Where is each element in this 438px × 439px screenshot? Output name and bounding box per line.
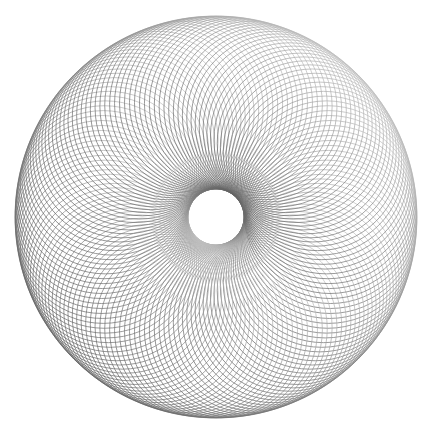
spirograph-figure [0, 0, 438, 439]
rosette-circles [15, 16, 417, 418]
